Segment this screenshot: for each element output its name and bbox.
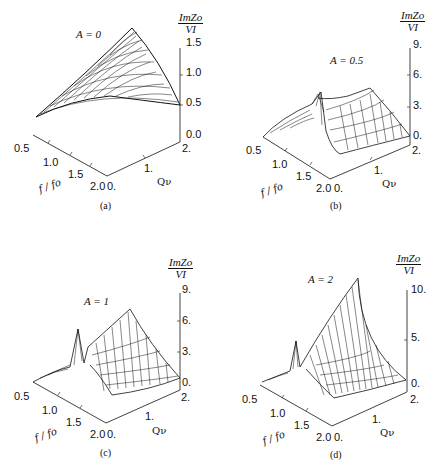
y-axis-label: Qν [152,425,166,436]
x-tick: 0.5 [14,142,29,154]
caption: (b) [330,200,342,211]
y-tick: 0. [107,180,116,192]
x-tick: 0.5 [242,393,257,405]
z-tick: 3. [413,99,422,111]
x-tick: 1.5 [294,419,309,431]
z-tick: 1.5 [186,36,201,48]
caption: (d) [330,449,342,460]
z-tick: 9. [413,38,422,50]
y-tick: 0. [107,428,116,440]
x-tick: 2.0 [90,180,105,192]
x-tick: 0.5 [14,390,29,402]
y-tick: 2. [182,142,191,154]
y-tick: 1. [372,413,381,425]
y-tick: 1. [145,410,154,422]
caption: (a) [100,200,111,211]
z-tick: 6. [413,68,422,80]
panel-title: A = 0.5 [330,54,363,66]
y-tick: 1. [144,162,153,174]
y-tick: 2. [412,144,421,156]
panel-a: A = 0 ImZo VI 1.5 1.0 0.5 0.0 0.5 1.0 1.… [0,0,220,235]
z-tick: 3. [182,345,191,357]
x-tick: 1.5 [296,170,311,182]
x-tick: 1.0 [43,156,58,168]
panel-b: A = 0.5 ImZo VI 9. 6. 3. 0. 0.5 1.0 1.5 … [220,0,440,235]
z-tick: 0.5 [186,96,201,108]
y-axis-label: Qν [380,427,394,438]
panel-title: A = 2 [308,273,333,285]
x-tick: 1.0 [42,404,57,416]
y-tick: 0. [334,431,343,443]
y-tick: 0. [334,182,343,194]
z-tick: 1.0 [186,66,201,78]
y-tick: 2. [181,391,190,403]
x-tick: 0.5 [246,144,261,156]
x-tick: 1.0 [270,407,285,419]
x-tick: 1.5 [66,416,81,428]
y-tick: 2. [410,393,419,405]
panel-title: A = 0 [76,28,101,40]
panel-d: A = 2 ImZo VI 10. 5. 0. 0.5 1.0 1.5 2.0 … [220,235,440,470]
x-tick: 2.0 [316,431,331,443]
z-tick: 5. [411,331,420,343]
x-tick: 2.0 [316,182,331,194]
x-tick: 1.0 [272,158,287,170]
z-tick: 6. [182,314,191,326]
z-tick: 10. [411,283,426,295]
x-tick: 1.5 [68,168,83,180]
z-tick: 0. [413,129,422,141]
z-axis-label: ImZo VI [400,10,425,33]
z-tick: 9. [182,283,191,295]
caption: (c) [100,447,111,458]
z-axis-label: ImZo VI [396,253,421,276]
z-tick: 0. [411,377,420,389]
panel-c: A = 1 ImZo VI 9. 6. 3. 0. 0.5 1.0 1.5 2.… [0,235,220,470]
z-axis-label: ImZo VI [178,12,203,35]
y-tick: 1. [374,164,383,176]
panel-title: A = 1 [84,295,109,307]
z-tick: 0.0 [186,128,201,140]
z-axis-label: ImZo VI [168,257,193,280]
y-axis-label: Qν [382,178,396,189]
y-axis-label: Qν [157,176,171,187]
z-tick: 0. [182,376,191,388]
x-tick: 2.0 [90,428,105,440]
